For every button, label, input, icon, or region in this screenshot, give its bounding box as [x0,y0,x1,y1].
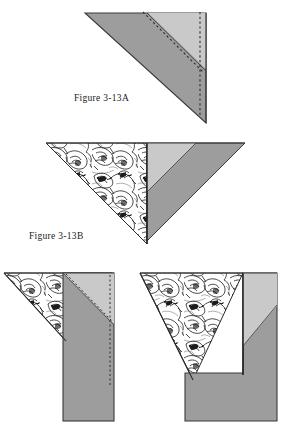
figure-a-folded-triangle [0,0,281,130]
figure-b-label: Figure 3-13B [29,231,84,241]
figure-d-triangle-with-gray-block [0,258,281,431]
figure-a-label: Figure 3-13A [74,93,129,103]
fig-b-printed-floral-triangle [46,143,147,244]
fig-d-printed-floral-triangle [140,273,243,380]
figure-page: Figure 3-13A Figure 3-13B [0,0,281,431]
